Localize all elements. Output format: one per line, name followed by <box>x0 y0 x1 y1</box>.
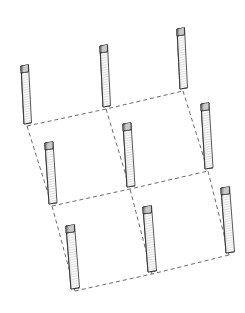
post-grid-diagram <box>0 0 245 313</box>
figure-root <box>0 0 245 313</box>
